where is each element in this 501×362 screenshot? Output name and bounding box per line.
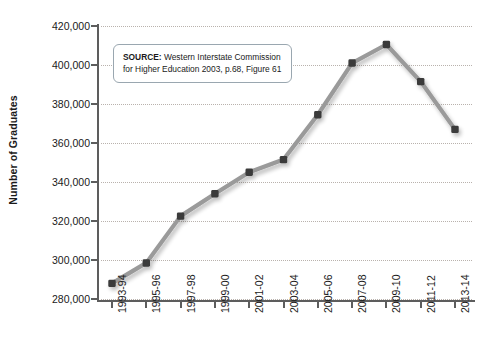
x-axis-tick-label: 2003-04 (277, 312, 291, 360)
data-point-marker (143, 259, 150, 266)
x-axis-tick-label: 2009-10 (379, 312, 393, 360)
line-chart: Number of Graduates 280,000300,000320,00… (0, 0, 501, 362)
x-axis-tick-mark (351, 300, 353, 308)
x-axis-tick-label: 2007-08 (345, 312, 359, 360)
y-axis-tick-mark (91, 25, 99, 27)
data-point-marker (451, 126, 458, 133)
x-axis-tick-mark (420, 300, 422, 308)
source-label: SOURCE: (123, 52, 162, 62)
data-point-marker (348, 59, 355, 66)
y-axis-tick-mark (91, 142, 99, 144)
x-axis-tick-mark (145, 300, 147, 308)
x-axis-tick-label: 2013-14 (448, 312, 462, 360)
y-axis-tick-mark (91, 298, 99, 300)
data-point-marker (383, 41, 390, 48)
y-axis-tick-mark (91, 259, 99, 261)
x-axis-tick-label: 2001-02 (242, 312, 256, 360)
x-axis-tick-label: 1997-98 (174, 312, 188, 360)
x-axis-tick-mark (180, 300, 182, 308)
y-axis-tick-mark (91, 220, 99, 222)
y-axis-tick-mark (91, 64, 99, 66)
y-axis-tick-mark (91, 103, 99, 105)
x-axis-tick-mark (111, 300, 113, 308)
x-axis-tick-mark (317, 300, 319, 308)
x-axis-tick-label: 1993-94 (105, 312, 119, 360)
data-point-marker (211, 190, 218, 197)
x-axis-tick-mark (283, 300, 285, 308)
data-point-marker (246, 169, 253, 176)
data-point-marker (108, 280, 115, 287)
source-callout: SOURCE: Western Interstate Commission fo… (113, 44, 292, 83)
data-point-marker (280, 156, 287, 163)
x-axis-tick-label: 1999-00 (208, 312, 222, 360)
data-point-marker (417, 78, 424, 85)
x-axis-tick-label: 2005-06 (311, 312, 325, 360)
x-axis-tick-label: 2011-12 (414, 312, 428, 360)
data-point-marker (314, 111, 321, 118)
x-axis-tick-label: 1995-96 (139, 312, 153, 360)
x-axis-tick-mark (214, 300, 216, 308)
x-axis-tick-mark (454, 300, 456, 308)
data-point-marker (177, 212, 184, 219)
x-axis-tick-mark (248, 300, 250, 308)
x-axis-tick-mark (385, 300, 387, 308)
y-axis-tick-mark (91, 181, 99, 183)
